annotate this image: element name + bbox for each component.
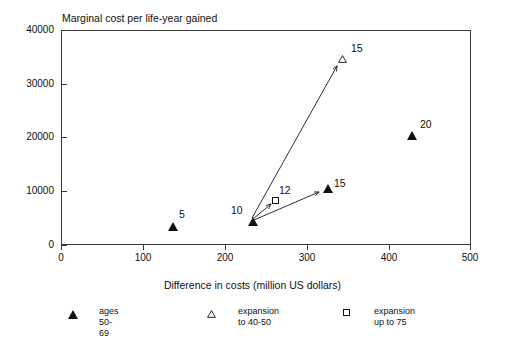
chart-title: Marginal cost per life-year gained: [62, 12, 217, 24]
y-tick-mark: [61, 137, 67, 138]
x-tick-label-300: 300: [284, 252, 330, 263]
y-tick-label-40000: 40000: [8, 24, 54, 35]
data-point-label-15-filled: 15: [334, 177, 346, 189]
chart-legend: ages 50-69 expansion to 40-50 expansion …: [0, 306, 505, 346]
data-point-marker-15-open[interactable]: [338, 55, 347, 63]
legend-label-expansion-up-to-75: expansion up to 75: [374, 306, 415, 328]
data-point-label-12: 12: [279, 184, 291, 196]
y-tick-mark: [61, 84, 67, 85]
x-tick-label-400: 400: [366, 252, 412, 263]
y-tick-label-10000: 10000: [8, 185, 54, 196]
data-point-label-15-open: 15: [351, 42, 363, 54]
legend-label-ages-50-69: ages 50-69: [99, 306, 119, 339]
x-tick-mark: [307, 244, 308, 250]
x-tick-mark: [225, 244, 226, 250]
x-tick-label-0: 0: [38, 252, 84, 263]
x-tick-mark: [470, 244, 471, 250]
legend-label-expansion-to-40-50: expansion to 40-50: [238, 306, 279, 328]
data-point-marker-20[interactable]: [407, 131, 417, 140]
data-point-label-10: 10: [231, 204, 243, 216]
chart-figure: Marginal cost per life-year gained 0 100…: [0, 0, 505, 346]
x-tick-label-500: 500: [447, 252, 493, 263]
x-tick-mark: [61, 244, 62, 250]
y-tick-label-0: 0: [8, 239, 54, 250]
y-tick-label-30000: 30000: [8, 78, 54, 89]
data-point-marker-10[interactable]: [248, 217, 258, 226]
x-tick-label-100: 100: [120, 252, 166, 263]
data-point-marker-12[interactable]: [272, 197, 279, 204]
y-tick-label-20000: 20000: [8, 131, 54, 142]
data-point-marker-5[interactable]: [168, 222, 178, 231]
y-tick-mark: [61, 30, 67, 31]
square-open-icon: [343, 309, 350, 316]
y-tick-mark: [61, 191, 67, 192]
data-point-label-5: 5: [179, 208, 185, 220]
x-tick-mark: [389, 244, 390, 250]
data-point-marker-15-filled[interactable]: [323, 184, 333, 193]
triangle-filled-icon: [68, 310, 78, 319]
data-point-label-20: 20: [420, 118, 432, 130]
x-axis-label: Difference in costs (million US dollars): [0, 279, 505, 291]
triangle-open-icon: [207, 310, 216, 318]
x-tick-label-200: 200: [202, 252, 248, 263]
x-tick-mark: [143, 244, 144, 250]
